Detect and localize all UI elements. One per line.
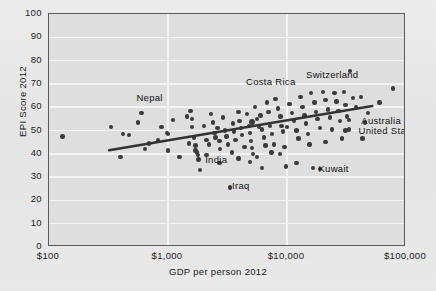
x-tick-label: $1,000 bbox=[152, 250, 183, 261]
y-tick-label: 100 bbox=[8, 7, 42, 18]
y-tick-label: 40 bbox=[8, 147, 42, 158]
y-tick-label: 90 bbox=[8, 30, 42, 41]
x-tick-label: $10,000 bbox=[268, 250, 304, 261]
y-tick-label: 60 bbox=[8, 100, 42, 111]
x-tick-label: $100 bbox=[37, 250, 59, 261]
y-tick-label: 30 bbox=[8, 170, 42, 181]
x-axis-label: GDP per person 2012 bbox=[0, 266, 436, 277]
annotation-label: United States bbox=[359, 125, 405, 136]
plot-area: NepalCosta RicaSwitzerlandAustraliaUnite… bbox=[48, 13, 405, 246]
scatter-chart-figure: EPI Score 2012 0102030405060708090100 Ne… bbox=[0, 0, 436, 291]
annotation-label: India bbox=[205, 154, 227, 165]
x-tick-label: $100,000 bbox=[384, 250, 426, 261]
annotation-label: Kuwait bbox=[318, 163, 348, 174]
annotation-label: Costa Rica bbox=[246, 76, 295, 87]
y-tick-label: 80 bbox=[8, 54, 42, 65]
trend-line bbox=[49, 14, 405, 246]
annotation-label: Nepal bbox=[136, 92, 162, 103]
annotation-label: Switzerland bbox=[306, 69, 358, 80]
y-tick-label: 70 bbox=[8, 77, 42, 88]
y-tick-label: 10 bbox=[8, 217, 42, 228]
y-tick-label: 20 bbox=[8, 193, 42, 204]
annotation-label: Iraq bbox=[232, 180, 250, 191]
y-tick-label: 50 bbox=[8, 124, 42, 135]
